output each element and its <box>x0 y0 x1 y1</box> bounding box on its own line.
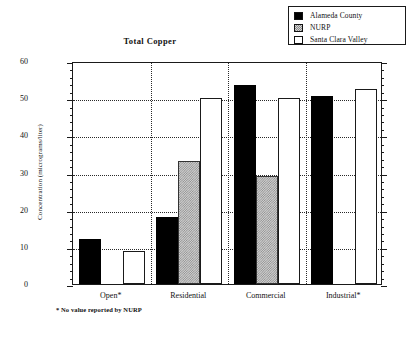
chart-legend: Alameda County NURP Santa Clara Valley <box>288 6 406 45</box>
y-axis-title: Concentration (micrograms/liter) <box>36 72 44 272</box>
axis-tick-minor <box>381 241 384 242</box>
axis-tick-minor <box>381 167 384 168</box>
bar-scv-residential <box>200 98 222 284</box>
axis-tick-major <box>381 137 387 138</box>
axis-tick-minor <box>381 78 384 79</box>
x-axis-label-industrial: Industrial* <box>305 291 383 300</box>
axis-tick-minor <box>70 70 73 71</box>
axis-tick-major <box>381 63 387 64</box>
axis-tick-minor <box>70 152 73 153</box>
y-axis-tick-label: 10 <box>2 243 28 252</box>
axis-tick-minor <box>70 241 73 242</box>
bar-alameda-industrial <box>311 96 333 284</box>
gridline-group-divider <box>151 63 152 284</box>
axis-tick-minor <box>70 160 73 161</box>
legend-swatch-alameda-county-icon <box>294 12 303 20</box>
axis-tick-minor <box>381 152 384 153</box>
axis-tick-minor <box>70 167 73 168</box>
axis-tick-minor <box>70 279 73 280</box>
legend-label-alameda-county: Alameda County <box>310 11 362 20</box>
bar-scv-commercial <box>278 98 300 284</box>
legend-item-santa-clara-valley: Santa Clara Valley <box>294 34 401 45</box>
axis-tick-minor <box>70 145 73 146</box>
chart-footnote: * No value reported by NURP <box>56 306 142 313</box>
axis-tick-minor <box>70 115 73 116</box>
axis-tick-minor <box>381 160 384 161</box>
bar-alameda-open <box>79 239 101 284</box>
axis-tick-minor <box>381 182 384 183</box>
axis-tick-minor <box>70 197 73 198</box>
axis-tick-minor <box>70 108 73 109</box>
gridline-horizontal <box>73 212 381 213</box>
axis-tick-major <box>381 100 387 101</box>
axis-tick-minor <box>70 85 73 86</box>
axis-tick-minor <box>381 189 384 190</box>
axis-tick-minor <box>381 108 384 109</box>
bar-scv-industrial <box>355 89 377 284</box>
axis-tick-minor <box>381 234 384 235</box>
axis-tick-minor <box>70 93 73 94</box>
bar-nurp-residential <box>178 161 200 284</box>
bar-alameda-commercial <box>234 85 256 284</box>
axis-tick-major <box>67 249 73 250</box>
axis-tick-major <box>381 175 387 176</box>
axis-tick-minor <box>381 271 384 272</box>
axis-tick-major <box>381 212 387 213</box>
gridline-horizontal <box>73 100 381 101</box>
x-axis-label-residential: Residential <box>150 291 228 300</box>
axis-tick-minor <box>381 122 384 123</box>
axis-tick-minor <box>70 182 73 183</box>
axis-tick-minor <box>70 122 73 123</box>
axis-tick-minor <box>381 93 384 94</box>
legend-label-nurp: NURP <box>310 23 330 32</box>
axis-tick-minor <box>381 227 384 228</box>
axis-tick-minor <box>381 279 384 280</box>
axis-tick-minor <box>70 219 73 220</box>
axis-tick-minor <box>381 145 384 146</box>
gridline-group-divider <box>306 63 307 284</box>
legend-item-nurp: NURP <box>294 22 401 33</box>
axis-tick-minor <box>381 197 384 198</box>
axis-tick-minor <box>381 70 384 71</box>
plot-area <box>72 62 382 285</box>
x-axis-label-commercial: Commercial <box>227 291 305 300</box>
gridline-horizontal <box>73 175 381 176</box>
axis-tick-minor <box>381 219 384 220</box>
axis-tick-minor <box>381 130 384 131</box>
axis-tick-major <box>67 212 73 213</box>
axis-tick-minor <box>70 227 73 228</box>
axis-tick-major <box>67 100 73 101</box>
chart-figure: Alameda County NURP Santa Clara Valley T… <box>0 0 412 337</box>
axis-tick-minor <box>381 264 384 265</box>
axis-tick-minor <box>381 115 384 116</box>
y-axis-tick-label: 40 <box>2 131 28 140</box>
axis-tick-minor <box>70 264 73 265</box>
gridline-group-divider <box>228 63 229 284</box>
gridline-horizontal <box>73 249 381 250</box>
axis-tick-minor <box>381 85 384 86</box>
legend-swatch-nurp-icon <box>294 24 303 32</box>
y-axis-tick-label: 0 <box>2 280 28 289</box>
bar-scv-open <box>123 251 145 284</box>
axis-tick-minor <box>70 271 73 272</box>
axis-tick-minor <box>70 256 73 257</box>
y-axis-tick-label: 20 <box>2 206 28 215</box>
axis-tick-minor <box>70 204 73 205</box>
axis-tick-major <box>67 286 73 287</box>
axis-tick-minor <box>70 130 73 131</box>
axis-tick-major <box>67 137 73 138</box>
bar-nurp-commercial <box>256 176 278 284</box>
chart-title: Total Copper <box>0 36 300 46</box>
axis-tick-minor <box>70 189 73 190</box>
x-axis-label-open: Open* <box>72 291 150 300</box>
y-axis-tick-label: 60 <box>2 57 28 66</box>
y-axis-tick-label: 50 <box>2 94 28 103</box>
y-axis-tick-label: 30 <box>2 169 28 178</box>
axis-tick-minor <box>381 256 384 257</box>
legend-item-alameda-county: Alameda County <box>294 10 401 21</box>
axis-tick-major <box>67 175 73 176</box>
axis-tick-major <box>381 286 387 287</box>
legend-label-santa-clara-valley: Santa Clara Valley <box>310 35 367 44</box>
axis-tick-minor <box>70 78 73 79</box>
axis-tick-major <box>67 63 73 64</box>
